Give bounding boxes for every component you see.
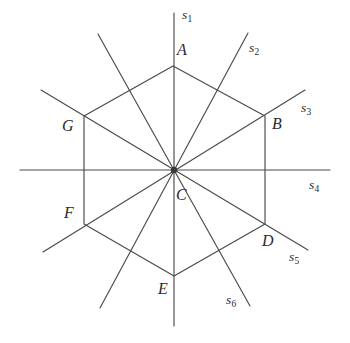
vertex-label-f: F	[64, 205, 74, 221]
line-label-s4: s4	[309, 178, 319, 194]
line-label-s6: s6	[226, 293, 236, 309]
line-label-subscript: 5	[294, 256, 299, 266]
line-label-s1: s1	[182, 8, 192, 24]
line-label-subscript: 1	[187, 14, 192, 24]
line-label-subscript: 4	[314, 184, 319, 194]
geometry-figure: ABCDEFG s1s2s3s4s5s6	[0, 0, 350, 343]
line-label-s3: s3	[301, 101, 311, 117]
line-label-subscript: 3	[306, 107, 311, 117]
vertex-label-a: A	[177, 42, 187, 58]
line-label-s5: s5	[289, 250, 299, 266]
line-label-subscript: 6	[231, 299, 236, 309]
vertex-label-b: B	[272, 116, 282, 132]
vertex-label-d: D	[262, 233, 274, 249]
line-label-s2: s2	[249, 41, 259, 57]
vertex-label-c: C	[176, 187, 187, 203]
center-point-marker	[171, 167, 177, 173]
vertex-label-e: E	[158, 281, 168, 297]
vertex-label-g: G	[62, 118, 74, 134]
diagram-canvas	[0, 0, 350, 343]
line-label-subscript: 2	[254, 47, 259, 57]
